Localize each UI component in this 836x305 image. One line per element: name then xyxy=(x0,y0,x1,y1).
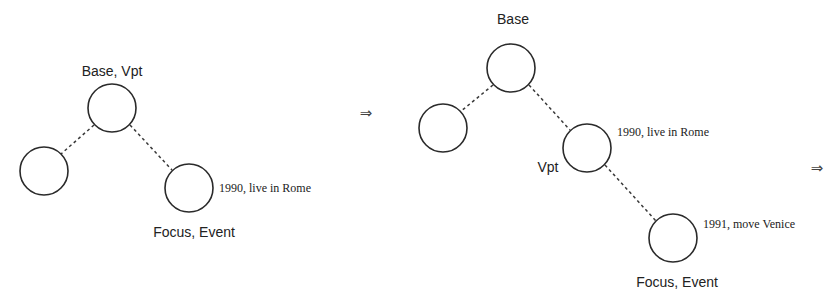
left-tree-focus-label: Focus, Event xyxy=(153,224,235,240)
right-tree-edge-root-left xyxy=(460,85,493,112)
left-tree-right-node xyxy=(165,164,213,212)
right-tree-event-annotation-2: 1991, move Venice xyxy=(703,217,795,231)
right-tree-root-node xyxy=(487,44,535,92)
right-tree-left-node xyxy=(419,104,467,152)
right-tree-event-annotation-1: 1990, live in Rome xyxy=(617,125,709,139)
discourse-tree-diagram: Base, Vpt 1990, live in Rome Focus, Even… xyxy=(0,0,836,305)
right-tree-right-node xyxy=(563,124,611,172)
left-tree-event-annotation: 1990, live in Rome xyxy=(219,181,311,195)
left-tree-edge-root-right xyxy=(130,125,172,170)
left-tree-root-label: Base, Vpt xyxy=(82,63,143,79)
continuation-arrow-icon: ⇒ xyxy=(811,159,824,177)
right-tree-edge-root-right xyxy=(529,85,570,130)
transition-arrow-icon: ⇒ xyxy=(360,104,373,122)
left-tree-root-node xyxy=(88,84,136,132)
left-tree-left-node xyxy=(20,147,68,195)
right-tree-grandchild-node xyxy=(649,214,697,262)
right-tree-root-label: Base xyxy=(497,11,529,27)
right-tree-vpt-label: Vpt xyxy=(537,159,558,175)
right-tree-focus-label: Focus, Event xyxy=(636,274,718,290)
left-tree-edge-root-left xyxy=(61,125,94,154)
right-tree-edge-right-grandchild xyxy=(605,165,656,221)
